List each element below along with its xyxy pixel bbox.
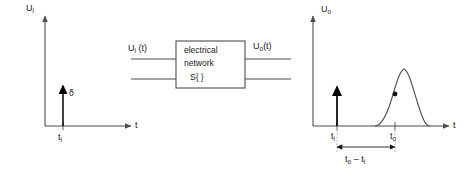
output-plot-tick-label-to: to <box>390 132 396 141</box>
input-impulse-delta-label: δ <box>69 89 74 98</box>
delay-dimension-label: to – ti <box>345 155 365 164</box>
input-plot-tick-label-ti: ti <box>58 133 62 142</box>
block-input-label: Ui (t) <box>128 44 147 53</box>
output-plot-tick-label-ti: ti <box>331 132 335 141</box>
input-plot-y-axis-label: Ui <box>26 4 34 13</box>
impulse-response-curve <box>375 69 430 126</box>
output-plot-y-axis-label: Uo <box>321 5 331 14</box>
block-box-line-2: network <box>184 58 214 69</box>
figure-vector-layer <box>0 0 469 174</box>
impulse-response-figure: Ui t δ ti Ui (t) Uo(t) electrical networ… <box>0 0 469 174</box>
input-plot-axes <box>45 16 131 130</box>
delay-dimension-annotation <box>337 130 395 152</box>
output-delay-marker-dot <box>393 92 398 97</box>
output-plot-x-axis-label: t <box>453 121 456 130</box>
block-output-label: Uo(t) <box>253 42 272 51</box>
output-plot-axes <box>313 16 449 130</box>
block-box-line-1: electrical <box>184 45 218 56</box>
block-box-line-3: S{ } <box>190 72 204 83</box>
input-plot-x-axis-label: t <box>135 121 138 130</box>
